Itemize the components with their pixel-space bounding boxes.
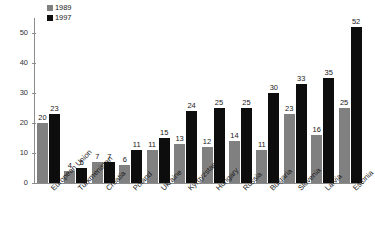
bar-group: 1324 (173, 18, 200, 183)
bar-value-label: 14 (230, 132, 238, 140)
x-axis-category-labels: European UnionTurkmenistanCroatiaPolandU… (35, 186, 365, 232)
bar-value-label: 24 (187, 102, 195, 110)
bar-1989: 20 (37, 123, 48, 183)
bar-value-label: 12 (203, 138, 211, 146)
bar-group: 1115 (146, 18, 173, 183)
bar-group: 1635 (310, 18, 337, 183)
bar-value-label: 25 (215, 99, 223, 107)
y-tick-label-40: 40 (2, 59, 28, 67)
bar-value-label: 25 (340, 99, 348, 107)
bar-1997: 23 (49, 114, 60, 183)
legend-swatch-1989 (47, 5, 53, 11)
legend-label-1989: 1989 (55, 3, 71, 12)
bar-1989: 25 (339, 108, 350, 183)
bar-value-label: 23 (50, 105, 58, 113)
bar-value-label: 30 (270, 84, 278, 92)
bar-value-label: 13 (175, 135, 183, 143)
bar-value-label: 52 (352, 18, 360, 26)
y-tick-label-30: 30 (2, 89, 28, 97)
bar-1997: 30 (268, 93, 279, 183)
bar-1997: 25 (214, 108, 225, 183)
bar-value-label: 15 (160, 129, 168, 137)
bar-group: 1225 (201, 18, 228, 183)
bar-1997: 24 (186, 111, 197, 183)
bar-1997: 33 (296, 84, 307, 183)
bar-value-label: 16 (312, 126, 320, 134)
y-tick-mark-0 (32, 183, 36, 184)
bar-group: 1130 (255, 18, 282, 183)
bar-value-label: 25 (242, 99, 250, 107)
bar-value-label: 6 (123, 156, 127, 164)
legend-item-1989: 1989 (47, 3, 107, 12)
bar-value-label: 35 (324, 69, 332, 77)
bar-value-label: 20 (38, 114, 46, 122)
bar-value-label: 11 (133, 141, 141, 149)
bar-group: 2333 (283, 18, 310, 183)
bar-value-label: 23 (285, 105, 293, 113)
bar-value-label: 7 (95, 153, 99, 161)
y-tick-label-20: 20 (2, 119, 28, 127)
bar-group: 611 (118, 18, 145, 183)
y-tick-label-50: 50 (2, 29, 28, 37)
bar-group: 2023 (36, 18, 63, 183)
bar-value-label: 11 (258, 141, 266, 149)
bar-1997: 25 (241, 108, 252, 183)
bar-1997: 52 (351, 27, 362, 183)
bar-value-label: 33 (297, 75, 305, 83)
bar-1997: 35 (323, 78, 334, 183)
bar-group: 2552 (338, 18, 365, 183)
y-tick-label-10: 10 (2, 149, 28, 157)
bar-value-label: 11 (148, 141, 156, 149)
bar-group: 1425 (228, 18, 255, 183)
y-tick-label-0: 0 (2, 179, 28, 187)
